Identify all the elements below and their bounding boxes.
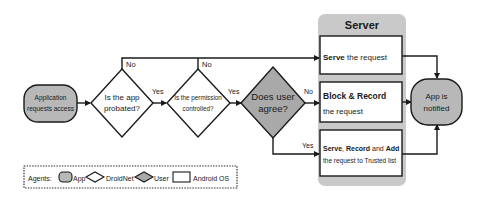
svg-text:the request: the request <box>323 107 364 116</box>
arrow-trusted-to-notified <box>402 125 437 154</box>
probated-no-label: No <box>126 60 136 69</box>
svg-text:App is: App is <box>425 92 447 101</box>
svg-text:controlled?: controlled? <box>183 105 214 112</box>
svg-text:agree?: agree? <box>258 103 288 114</box>
start-node-application-requests-access: Application requests access <box>24 85 77 122</box>
server-box-serve-request: Serve the request <box>320 36 402 74</box>
svg-text:the request to Trusted list: the request to Trusted list <box>323 157 396 165</box>
svg-text:Serve the request: Serve the request <box>323 53 388 62</box>
svg-text:probated?: probated? <box>104 104 141 113</box>
svg-text:Block & Record: Block & Record <box>323 91 386 101</box>
server-box-block-record: Block & Record the request <box>320 82 402 122</box>
legend-item-app: App <box>59 172 86 183</box>
svg-text:Is the permission: Is the permission <box>174 94 222 102</box>
permission-no-label: No <box>202 60 212 69</box>
decision-does-user-agree: Does user agree? <box>241 67 305 138</box>
no-bus-line <box>121 58 319 69</box>
server-box-serve-record-add: Serve, Record and Add the request to Tru… <box>320 130 402 176</box>
probated-yes-label: Yes <box>152 88 164 95</box>
svg-text:notified: notified <box>424 104 450 113</box>
legend-item-android-os: Android OS <box>173 172 230 182</box>
decision-is-app-probated: Is the app probated? <box>91 69 153 137</box>
user-yes-label: Yes <box>302 142 314 149</box>
legend-item-user: User <box>135 172 169 182</box>
svg-text:DroidNet: DroidNet <box>106 175 134 182</box>
svg-text:App: App <box>73 175 86 183</box>
server-title: Server <box>345 19 380 31</box>
arrow-serve-to-notified <box>402 56 437 78</box>
svg-text:Is the app: Is the app <box>104 93 140 102</box>
svg-text:Application: Application <box>35 94 67 102</box>
legend-label: Agents: <box>28 175 52 183</box>
permission-yes-label: Yes <box>228 88 240 95</box>
svg-text:Android OS: Android OS <box>193 175 230 182</box>
svg-text:Does user: Does user <box>251 91 294 102</box>
flowchart: Server No No Application requests access… <box>0 0 481 202</box>
user-no-label: No <box>304 88 313 95</box>
svg-text:Serve, Record and Add: Serve, Record and Add <box>323 145 399 152</box>
end-node-app-notified: App is notified <box>411 79 462 125</box>
svg-text:User: User <box>154 175 169 182</box>
svg-text:requests access: requests access <box>27 105 75 113</box>
legend-agents: Agents: App DroidNet User Android OS <box>24 166 237 188</box>
decision-is-permission-controlled: Is the permission controlled? <box>167 69 230 137</box>
legend-item-droidnet: DroidNet <box>86 172 134 182</box>
